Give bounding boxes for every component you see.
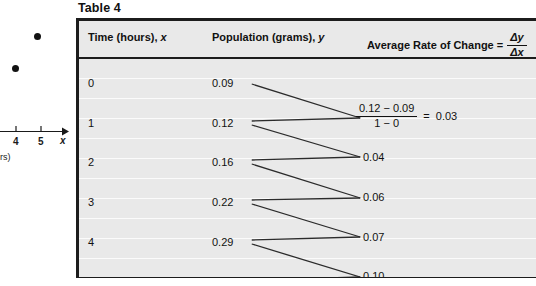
table-cell-x: 1 — [88, 117, 94, 129]
rate-of-change-value: 0.04 — [363, 151, 384, 163]
connector-lines — [79, 59, 536, 277]
difference-quotient-fraction: 0.12 − 0.09 1 − 0 — [356, 103, 417, 130]
difference-quotient-denominator: 1 − 0 — [371, 118, 402, 130]
table-caption: Table 4 — [78, 1, 121, 15]
table-cell-y: 0.16 — [212, 156, 233, 168]
table-cell-y: 0.22 — [212, 196, 233, 208]
table-cell-x: 4 — [88, 236, 94, 248]
table-cell-y: 0.39 — [212, 276, 233, 277]
delta-x-denominator: Δx — [507, 47, 527, 59]
column-header-time-text: Time (hours), — [88, 31, 161, 43]
column-header-population-variable: y — [318, 31, 324, 43]
table-cell-y: 0.29 — [212, 236, 233, 248]
row-separator — [79, 198, 536, 199]
delta-fraction: Δy Δx — [507, 32, 527, 59]
x-axis-variable-label: x — [60, 135, 66, 146]
delta-y-numerator: Δy — [507, 32, 527, 44]
row-separator — [79, 98, 536, 99]
equals-sign: = — [423, 110, 429, 122]
table-cell-x: 0 — [88, 77, 94, 89]
rate-of-change-value: 0.03 — [436, 110, 457, 122]
rate-of-change-value: 0.06 — [363, 191, 384, 203]
row-separator — [79, 158, 536, 159]
column-header-rate-text: Average Rate of Change = — [367, 39, 503, 51]
row-separator — [79, 218, 536, 219]
column-header-population-text: Population (grams), — [212, 31, 318, 43]
table-cell-x: 3 — [88, 196, 94, 208]
table-body: 0 1 2 3 4 5 0.09 0.12 0.16 0.22 0.29 0.3… — [79, 59, 536, 277]
axis-caption-fragment: rs) — [0, 152, 11, 162]
data-table: Time (hours), x Population (grams), y Av… — [76, 18, 536, 278]
row-separator — [79, 78, 536, 79]
x-axis-tick-5: 5 — [38, 136, 44, 147]
table-cell-x: 2 — [88, 156, 94, 168]
column-header-population: Population (grams), y — [212, 31, 324, 43]
table-header-row: Time (hours), x Population (grams), y Av… — [79, 21, 536, 59]
table-cell-y: 0.12 — [212, 117, 233, 129]
row-separator — [79, 238, 536, 239]
rate-of-change-detail: 0.12 − 0.09 1 − 0 = 0.03 — [356, 103, 457, 130]
rate-of-change-value: 0.07 — [363, 231, 384, 243]
x-axis-tick-4: 4 — [13, 136, 19, 147]
column-header-time: Time (hours), x — [88, 31, 167, 43]
column-header-rate: Average Rate of Change = Δy Δx — [367, 32, 527, 59]
difference-quotient-numerator: 0.12 − 0.09 — [356, 103, 417, 115]
row-separator — [79, 118, 536, 119]
rate-of-change-value: 0.10 — [363, 270, 384, 277]
row-separator — [79, 178, 536, 179]
row-separator — [79, 258, 536, 259]
table-block: Table 4 Time (hours), x Population (gram… — [74, 0, 526, 286]
table-cell-x: 5 — [88, 276, 94, 277]
graph-fragment: 4 5 x rs) — [0, 0, 72, 286]
row-separator — [79, 138, 536, 139]
column-header-time-variable: x — [161, 31, 167, 43]
table-cell-y: 0.09 — [212, 77, 233, 89]
